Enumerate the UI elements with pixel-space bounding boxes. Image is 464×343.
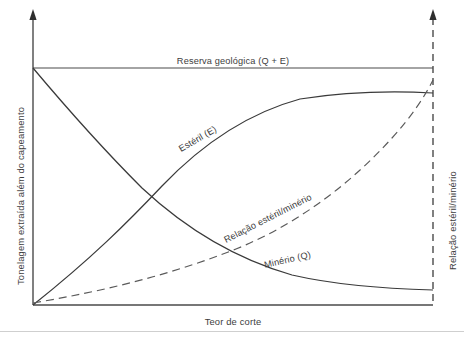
y-axis-left xyxy=(29,9,36,305)
label-relacao-esteril-minerio: Relação estéril/minério xyxy=(222,192,313,245)
label-reserva-geologica: Reserva geológica (Q + E) xyxy=(177,56,289,66)
series-minerio xyxy=(33,68,433,290)
y-axis-left-label: Tonelagem extraída além do capeamento xyxy=(15,107,26,285)
chart-figure: Reserva geológica (Q + E) Estéril (E) Re… xyxy=(0,0,464,343)
label-minerio: Minério (Q) xyxy=(263,249,312,269)
y-axis-right xyxy=(429,9,436,305)
label-esteril: Estéril (E) xyxy=(177,124,218,154)
x-axis-label: Teor de corte xyxy=(205,316,262,327)
series-esteril xyxy=(33,92,433,305)
y-axis-right-label: Relação estéril/minério xyxy=(447,171,458,270)
series-relacao-esteril-minerio xyxy=(33,80,433,303)
